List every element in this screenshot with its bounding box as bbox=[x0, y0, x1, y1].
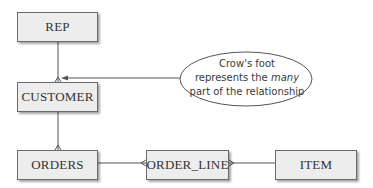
callout-line-2-prefix: represents the bbox=[195, 72, 271, 83]
entity-item: ITEM bbox=[275, 150, 357, 180]
er-diagram: REP CUSTOMER ORDERS ORDER_LINE ITEM Crow… bbox=[0, 0, 373, 188]
entity-customer: CUSTOMER bbox=[17, 82, 98, 112]
callout-line-2: represents the many bbox=[183, 71, 311, 85]
entity-orders: ORDERS bbox=[17, 150, 98, 180]
entity-label: CUSTOMER bbox=[21, 89, 93, 105]
entity-label: ITEM bbox=[300, 157, 333, 173]
entity-label: REP bbox=[45, 19, 69, 35]
arrowhead-icon bbox=[61, 76, 68, 81]
callout-emphasis: many bbox=[271, 72, 299, 83]
callout-text: Crow's foot represents the many part of … bbox=[183, 57, 311, 99]
entity-order-line: ORDER_LINE bbox=[146, 150, 229, 180]
callout-line-1: Crow's foot bbox=[183, 57, 311, 71]
entity-rep: REP bbox=[17, 12, 98, 42]
callout-line-3: part of the relationship bbox=[183, 85, 311, 99]
entity-label: ORDERS bbox=[31, 157, 84, 173]
entity-label: ORDER_LINE bbox=[146, 157, 228, 173]
